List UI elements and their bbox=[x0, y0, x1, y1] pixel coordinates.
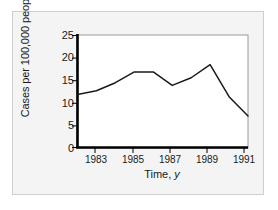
plot-background bbox=[77, 35, 248, 148]
plot-canvas bbox=[0, 0, 278, 210]
line-chart: Cases per 100,000 people Time, y 25 20 1… bbox=[0, 0, 278, 210]
